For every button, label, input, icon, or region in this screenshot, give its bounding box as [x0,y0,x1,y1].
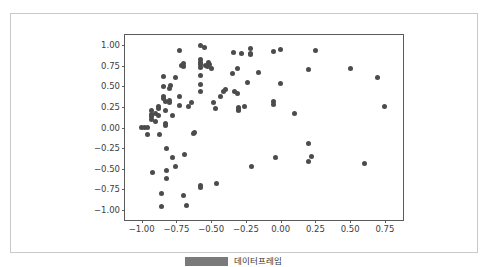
data-point [309,154,314,159]
x-tick-mark [315,220,316,223]
data-point [231,50,236,55]
data-point [198,73,203,78]
x-tick-mark [142,220,143,223]
data-point [153,119,158,124]
data-point [198,65,203,70]
data-point [375,75,380,80]
data-point [150,170,155,175]
data-point [182,152,187,157]
y-tick-mark [122,210,125,211]
data-point [278,47,283,52]
y-tick-label: 1.00 [101,41,120,50]
y-tick-mark [122,189,125,190]
data-point [211,100,216,105]
x-tick-mark [176,220,177,223]
data-point [306,159,311,164]
x-tick-label: −0.25 [233,225,259,234]
y-tick-mark [122,107,125,108]
data-point [209,66,214,71]
data-point [218,94,223,99]
scatter-points-layer [125,35,403,220]
y-tick-label: 0.00 [101,123,120,132]
data-point [235,66,240,71]
y-tick-mark [122,45,125,46]
data-point [170,155,175,160]
y-tick-label: −0.25 [94,144,120,153]
x-tick-label: 0.00 [271,225,290,234]
data-point [159,204,164,209]
data-point [145,132,150,137]
x-tick-label: 0.50 [341,225,360,234]
legend-caption: 데이터프레임 [234,257,282,266]
x-tick-mark [246,220,247,223]
data-point [173,164,178,169]
data-point [278,81,283,86]
x-tick-mark [385,220,386,223]
data-point [192,130,197,135]
legend-color-swatch [185,257,228,266]
data-point [198,82,203,87]
data-point [214,181,219,186]
data-point [170,113,175,118]
data-point [235,91,240,96]
data-point [177,94,182,99]
x-tick-label: −1.00 [129,225,155,234]
y-tick-mark [122,148,125,149]
x-tick-mark [350,220,351,223]
y-tick-label: 0.50 [101,82,120,91]
data-point [184,203,189,208]
data-point [189,100,194,105]
figure-card: −1.00−0.75−0.50−0.250.000.250.500.75 1.0… [10,13,478,253]
data-point [198,185,203,190]
scatter-plot-axes: −1.00−0.75−0.50−0.250.000.250.500.75 1.0… [124,34,404,221]
data-point [198,89,203,94]
data-point [177,48,182,53]
y-tick-mark [122,66,125,67]
data-point [213,106,218,111]
data-point [248,52,253,57]
data-point [245,80,250,85]
data-point [306,141,311,146]
data-point [145,125,150,130]
data-point [157,132,162,137]
data-point [164,146,169,151]
data-point [292,111,297,116]
y-tick-label: −1.00 [94,206,120,215]
x-tick-mark [281,220,282,223]
data-point [173,75,178,80]
data-point [362,161,367,166]
data-point [230,71,235,76]
x-tick-label: 0.25 [306,225,325,234]
y-tick-label: 0.75 [101,61,120,70]
data-point [181,193,186,198]
data-point [248,46,253,51]
data-point [159,191,164,196]
data-point [223,87,228,92]
data-point [177,103,182,108]
data-point [161,74,166,79]
data-point [242,104,247,109]
data-point [249,164,254,169]
x-tick-label: −0.75 [163,225,189,234]
x-tick-label: 0.75 [375,225,394,234]
data-point [163,108,168,113]
y-tick-label: −0.75 [94,185,120,194]
data-point [306,67,311,72]
data-point [161,84,166,89]
data-point [168,83,173,88]
y-tick-mark [122,128,125,129]
y-tick-mark [122,86,125,87]
data-point [273,155,278,160]
data-point [313,48,318,53]
data-point [202,45,207,50]
data-point [256,70,261,75]
data-point [156,113,161,118]
data-point [163,123,168,128]
x-tick-mark [211,220,212,223]
y-tick-label: −0.50 [94,165,120,174]
data-point [382,104,387,109]
data-point [156,106,161,111]
data-point [164,168,169,173]
data-point [239,51,244,56]
y-tick-label: 0.25 [101,103,120,112]
